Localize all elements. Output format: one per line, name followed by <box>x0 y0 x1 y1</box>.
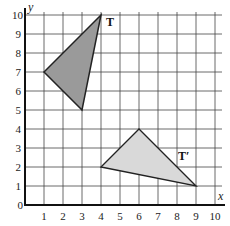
svg-text:5: 5 <box>117 210 123 222</box>
label-t-prime: T′ <box>178 149 189 163</box>
svg-text:2: 2 <box>16 161 22 173</box>
svg-text:1: 1 <box>41 210 47 222</box>
x-axis-label: x <box>217 189 224 203</box>
svg-text:8: 8 <box>16 47 22 59</box>
triangle-t <box>44 15 101 110</box>
svg-text:6: 6 <box>136 210 142 222</box>
coordinate-grid: T T′ y x 0 1 2 3 4 5 6 7 8 9 10 1 2 3 4 … <box>0 0 230 226</box>
y-tick-labels: 0 1 2 3 4 5 6 7 8 9 10 <box>12 9 24 211</box>
svg-text:4: 4 <box>98 210 104 222</box>
svg-text:6: 6 <box>16 85 22 97</box>
svg-text:3: 3 <box>16 142 22 154</box>
svg-text:9: 9 <box>193 210 199 222</box>
svg-text:5: 5 <box>16 104 22 116</box>
svg-text:2: 2 <box>60 210 66 222</box>
svg-text:10: 10 <box>12 9 24 21</box>
svg-text:1: 1 <box>16 180 22 192</box>
svg-text:9: 9 <box>16 28 22 40</box>
x-tick-labels: 1 2 3 4 5 6 7 8 9 10 <box>41 210 221 222</box>
svg-text:10: 10 <box>210 210 222 222</box>
svg-text:8: 8 <box>174 210 180 222</box>
svg-text:4: 4 <box>16 123 22 135</box>
y-axis-label: y <box>27 0 34 14</box>
svg-text:3: 3 <box>79 210 85 222</box>
svg-text:7: 7 <box>16 66 22 78</box>
svg-text:0: 0 <box>18 199 24 211</box>
label-t: T <box>106 15 114 29</box>
svg-text:7: 7 <box>155 210 161 222</box>
grid-lines <box>25 12 222 205</box>
